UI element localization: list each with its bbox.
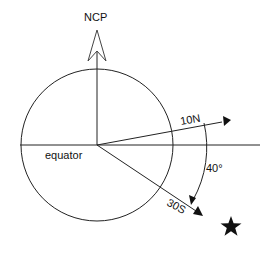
celestial-diagram: NCP equator 10N 40° 30S [0,0,273,253]
ray-10n-arrowhead-icon [223,116,231,126]
angle-label: 40° [206,162,223,174]
ray-30s-arrowhead-icon [193,206,203,216]
equator-label: equator [45,149,83,161]
ncp-label: NCP [84,11,107,23]
angle-arc [193,123,207,200]
ray-30s-label: 30S [165,196,188,216]
star-icon [221,216,242,236]
ray-10n-label: 10N [179,112,201,127]
ray-10n [97,122,222,145]
